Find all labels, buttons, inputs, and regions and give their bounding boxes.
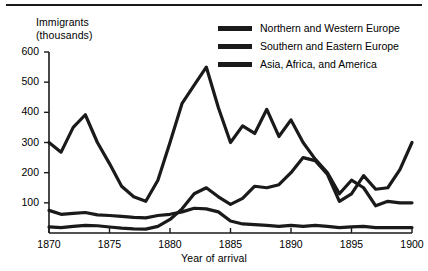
x-tick-label: 1895 (332, 238, 372, 250)
y-tick-label: 200 (9, 166, 39, 178)
x-tick-label: 1900 (392, 238, 428, 250)
legend-item-asia-africa-america: Asia, Africa, and America (218, 56, 400, 72)
x-tick-label: 1870 (29, 238, 69, 250)
x-tick-label: 1875 (90, 238, 130, 250)
legend-swatch-icon (218, 26, 252, 31)
y-tick-label: 500 (9, 75, 39, 87)
chart-figure: Immigrants (thousands) Year of arrival 1… (0, 0, 428, 271)
legend-swatch-icon (218, 44, 252, 49)
chart-legend: Northern and Western Europe Southern and… (218, 20, 400, 74)
y-tick-label: 300 (9, 136, 39, 148)
y-tick-label: 400 (9, 105, 39, 117)
legend-item-label: Asia, Africa, and America (260, 58, 377, 70)
series-line (49, 208, 412, 227)
x-tick-label: 1890 (271, 238, 311, 250)
data-series-lines (49, 67, 412, 229)
legend-item-label: Southern and Eastern Europe (260, 40, 399, 52)
legend-item-northern-western-europe: Northern and Western Europe (218, 20, 400, 36)
y-tick-label: 100 (9, 196, 39, 208)
y-tick-label: 600 (9, 45, 39, 57)
x-tick-label: 1885 (211, 238, 251, 250)
legend-swatch-icon (218, 62, 252, 67)
legend-item-label: Northern and Western Europe (260, 22, 400, 34)
legend-item-southern-eastern-europe: Southern and Eastern Europe (218, 38, 400, 54)
x-tick-label: 1880 (150, 238, 190, 250)
